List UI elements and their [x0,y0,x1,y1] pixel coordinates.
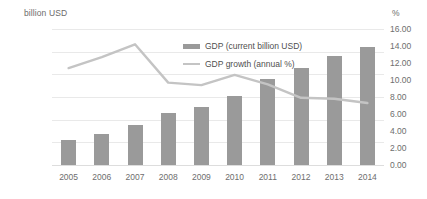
y-right-tick-label: 4.00 [390,127,407,136]
combo-chart: billion USD % 0.002000.004000.006000.008… [0,0,427,199]
legend-item-gdp-growth: GDP growth (annual %) [183,55,302,73]
legend-label-gdp-growth: GDP growth (annual %) [205,59,295,69]
x-tick-label-2005: 2005 [52,172,85,182]
y-right-tick-label: 8.00 [390,93,407,102]
x-tick-label-2008: 2008 [152,172,185,182]
x-tick-label-2013: 2013 [318,172,351,182]
bar-swatch-icon [183,44,200,49]
gridline [52,165,384,166]
legend-label-gdp: GDP (current billion USD) [205,41,302,51]
y-right-tick-label: 2.00 [390,144,407,153]
y-right-tick-label: 16.00 [390,25,411,34]
chart-legend: GDP (current billion USD) GDP growth (an… [183,37,302,73]
y-right-tick-label: 12.00 [390,59,411,68]
y-right-tick-label: 14.00 [390,42,411,51]
line-swatch-icon [183,63,200,65]
x-tick-label-2011: 2011 [251,172,284,182]
x-tick-label-2006: 2006 [85,172,118,182]
x-tick-label-2007: 2007 [118,172,151,182]
y-right-tick-label: 10.00 [390,76,411,85]
x-tick-label-2012: 2012 [284,172,317,182]
x-tick-label-2010: 2010 [218,172,251,182]
y-axis-right-title: % [392,8,400,18]
y-right-tick-label: 6.00 [390,110,407,119]
y-right-tick-label: 0.00 [390,161,407,170]
legend-item-gdp: GDP (current billion USD) [183,37,302,55]
x-tick-label-2009: 2009 [185,172,218,182]
x-tick-label-2014: 2014 [351,172,384,182]
y-axis-left-title: billion USD [24,8,67,18]
